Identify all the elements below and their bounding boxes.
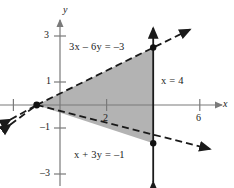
equation-label-upper: 3x – 6y = –3	[69, 42, 125, 53]
vertex-point-left	[33, 102, 40, 109]
y-tick-label-3: 3	[44, 30, 49, 40]
vertex-point-bottom	[150, 140, 156, 146]
vertex-point-top	[150, 44, 156, 50]
y-tick-label-1: 1	[46, 76, 51, 86]
equation-label-vertical: x = 4	[161, 76, 184, 87]
x-axis-label: x	[223, 99, 227, 109]
x-tick-label-6: 6	[196, 113, 201, 123]
graph-figure: x y 3 1 –1 –3 2 6 3x – 6y = –3 x + 3y = …	[0, 0, 234, 188]
x-tick-label-2: 2	[103, 113, 108, 123]
line-x-plus-3y-equals-minus-1	[11, 105, 37, 125]
equation-label-lower: x + 3y = –1	[74, 150, 125, 161]
y-tick-label-minus-3: –3	[40, 168, 50, 178]
y-tick-label-minus-1: –1	[40, 122, 50, 132]
y-axis-label: y	[63, 5, 67, 15]
shaded-solution-region	[37, 48, 154, 144]
